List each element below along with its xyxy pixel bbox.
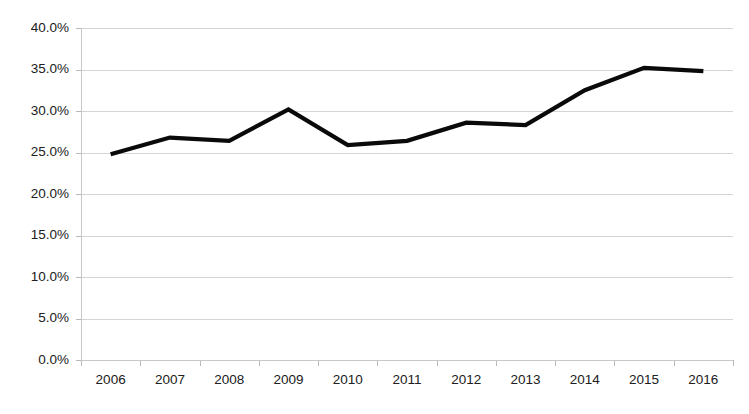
- x-axis-label: 2006: [96, 372, 126, 387]
- x-axis-label: 2011: [392, 372, 421, 387]
- y-axis-label: 5.0%: [38, 310, 69, 325]
- x-axis-label: 2016: [688, 372, 718, 387]
- y-axis-label: 20.0%: [31, 186, 69, 201]
- y-axis-label: 35.0%: [31, 61, 69, 76]
- x-axis-label: 2010: [333, 372, 363, 387]
- tick-marks: [76, 29, 734, 367]
- gridlines: [81, 29, 733, 361]
- y-axis-label: 30.0%: [31, 103, 69, 118]
- x-axis-label: 2013: [511, 372, 541, 387]
- x-axis-label: 2015: [629, 372, 659, 387]
- y-axis-tick-labels: 0.0%5.0%10.0%15.0%20.0%25.0%30.0%35.0%40…: [31, 20, 69, 367]
- y-axis-label: 40.0%: [31, 20, 69, 35]
- y-axis-label: 0.0%: [38, 352, 69, 367]
- x-axis-label: 2014: [570, 372, 601, 387]
- x-axis-label: 2012: [451, 372, 481, 387]
- y-axis-label: 25.0%: [31, 144, 69, 159]
- x-axis-tick-labels: 2006200720082009201020112012201320142015…: [96, 372, 719, 387]
- chart-canvas: 0.0%5.0%10.0%15.0%20.0%25.0%30.0%35.0%40…: [0, 0, 749, 414]
- y-axis-label: 10.0%: [31, 269, 69, 284]
- x-axis-label: 2009: [273, 372, 303, 387]
- x-axis-label: 2008: [214, 372, 244, 387]
- y-axis-label: 15.0%: [31, 227, 69, 242]
- x-axis-label: 2007: [155, 372, 185, 387]
- line-chart: 0.0%5.0%10.0%15.0%20.0%25.0%30.0%35.0%40…: [0, 0, 749, 414]
